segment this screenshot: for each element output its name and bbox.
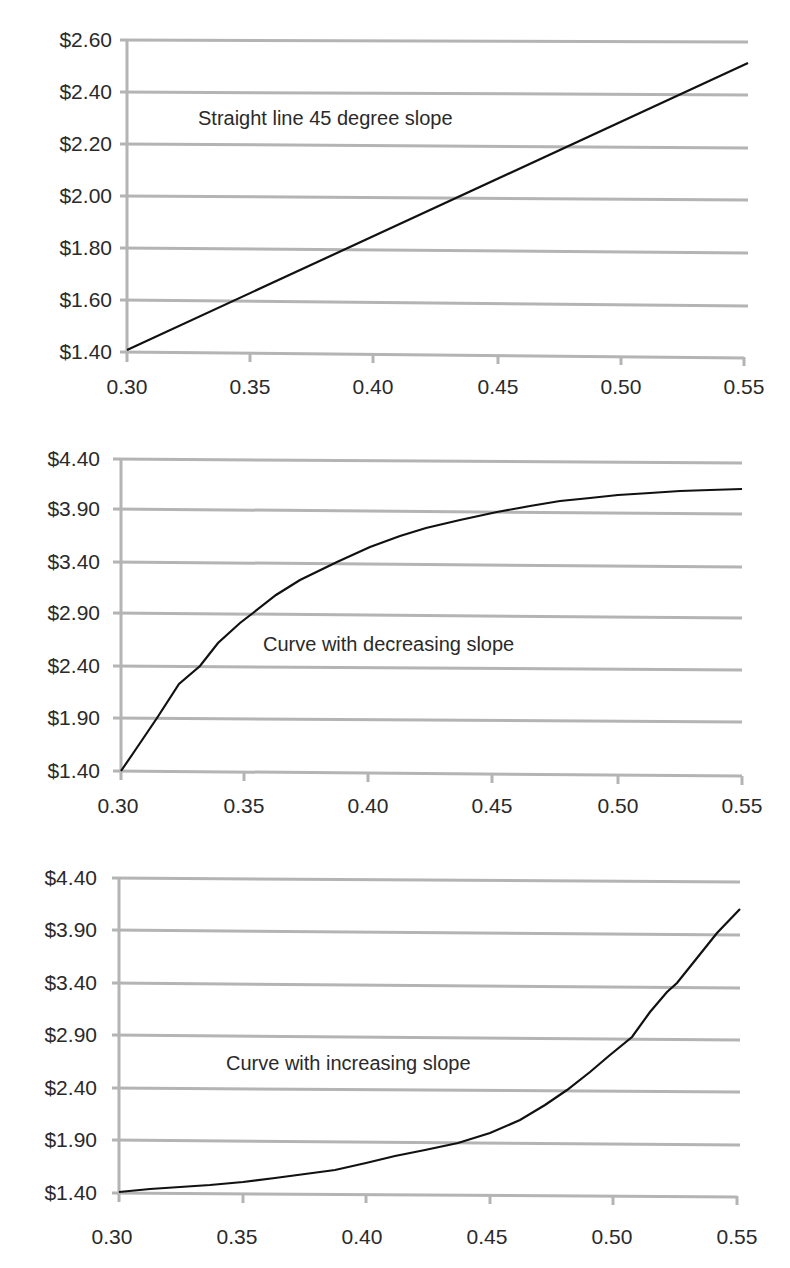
y-tick-label: $3.40 [0, 972, 97, 994]
gridlines [112, 878, 740, 1205]
y-tick-label: $1.40 [0, 1182, 97, 1204]
series-line [119, 909, 740, 1192]
x-tick-label: 0.40 [322, 1226, 402, 1248]
y-tick-label: $3.90 [0, 919, 97, 941]
x-tick-label: 0.30 [72, 1226, 152, 1248]
x-tick-label: 0.50 [572, 1226, 652, 1248]
y-tick-label: $2.40 [0, 1077, 97, 1099]
y-tick-label: $4.40 [0, 867, 97, 889]
chart-3-plot [0, 0, 790, 1268]
chart-increasing-slope: $4.40 $3.90 $3.40 $2.90 $2.40 $1.90 $1.4… [0, 0, 790, 1268]
y-tick-label: $2.90 [0, 1024, 97, 1046]
chart-annotation: Curve with increasing slope [226, 1052, 471, 1074]
x-tick-label: 0.55 [697, 1226, 777, 1248]
x-tick-label: 0.35 [197, 1226, 277, 1248]
y-tick-label: $1.90 [0, 1129, 97, 1151]
x-tick-label: 0.45 [447, 1226, 527, 1248]
